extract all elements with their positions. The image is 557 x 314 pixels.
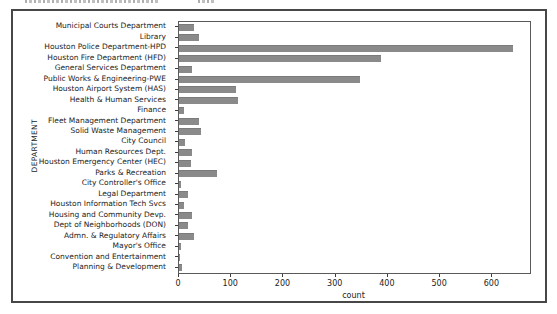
y-tick-mark: [175, 225, 178, 226]
category-label: Housing and Community Devp.: [13, 211, 173, 219]
y-tick-mark: [175, 173, 178, 174]
category-label: Municipal Courts Department: [13, 22, 173, 30]
bar: [179, 149, 192, 156]
x-axis-title: count: [342, 292, 365, 300]
bar: [179, 55, 381, 62]
category-label: Houston Airport System (HAS): [13, 85, 173, 93]
y-tick-mark: [175, 256, 178, 257]
category-label: Public Works & Engineering-PWE: [13, 75, 173, 83]
category-label: Mayor's Office: [13, 242, 173, 250]
y-tick-mark: [175, 246, 178, 247]
bar: [179, 191, 188, 198]
x-tick-label: 100: [223, 280, 238, 288]
y-axis-title: DEPARTMENT: [31, 115, 39, 175]
cropped-text-fragment: [25, 0, 160, 3]
x-tick-mark: [387, 274, 388, 277]
bar: [179, 202, 184, 209]
x-tick-mark: [335, 274, 336, 277]
x-tick-label: 0: [175, 280, 180, 288]
plot-area: [178, 21, 531, 274]
y-tick-mark: [175, 99, 178, 100]
y-tick-mark: [175, 37, 178, 38]
bar: [179, 170, 217, 177]
y-tick-mark: [175, 235, 178, 236]
figure-frame: Municipal Courts DepartmentLibraryHousto…: [11, 9, 547, 303]
y-tick-mark: [175, 68, 178, 69]
bar: [179, 107, 184, 114]
bar: [179, 233, 194, 240]
category-label: Houston Fire Department (HFD): [13, 54, 173, 62]
y-tick-mark: [175, 26, 178, 27]
x-tick-label: 300: [327, 280, 342, 288]
y-tick-mark: [175, 58, 178, 59]
y-tick-mark: [175, 162, 178, 163]
x-tick-mark: [178, 274, 179, 277]
bar: [179, 76, 360, 83]
bar: [179, 243, 181, 250]
category-label: Admn. & Regulatory Affairs: [13, 232, 173, 240]
bar: [179, 34, 199, 41]
y-tick-mark: [175, 120, 178, 121]
y-tick-mark: [175, 141, 178, 142]
y-tick-mark: [175, 131, 178, 132]
bar: [179, 24, 194, 31]
x-tick-mark: [282, 274, 283, 277]
x-tick-label: 600: [484, 280, 499, 288]
bar: [179, 222, 188, 229]
category-label: Health & Human Services: [13, 96, 173, 104]
x-tick-label: 500: [432, 280, 447, 288]
category-label: Houston Information Tech Svcs: [13, 200, 173, 208]
x-tick-mark: [439, 274, 440, 277]
x-tick-mark: [230, 274, 231, 277]
cropped-text-fragment: [198, 0, 216, 3]
x-tick-mark: [491, 274, 492, 277]
y-tick-mark: [175, 267, 178, 268]
y-tick-mark: [175, 183, 178, 184]
bar: [179, 160, 191, 167]
y-tick-mark: [175, 204, 178, 205]
y-tick-mark: [175, 214, 178, 215]
category-label: Convention and Entertainment: [13, 253, 173, 261]
category-label: General Services Department: [13, 64, 173, 72]
category-label: Finance: [13, 106, 173, 114]
category-label: City Controller's Office: [13, 179, 173, 187]
bar: [179, 66, 192, 73]
bar: [179, 264, 182, 271]
category-label: Houston Police Department-HPD: [13, 43, 173, 51]
category-label: Legal Department: [13, 190, 173, 198]
bar: [179, 128, 201, 135]
bar: [179, 212, 192, 219]
y-tick-mark: [175, 110, 178, 111]
y-tick-mark: [175, 79, 178, 80]
y-tick-mark: [175, 194, 178, 195]
bar: [179, 118, 199, 125]
bar: [179, 86, 236, 93]
y-tick-mark: [175, 47, 178, 48]
bar: [179, 97, 238, 104]
category-label: Dept of Neighborhoods (DON): [13, 221, 173, 229]
bar: [179, 254, 180, 261]
category-label: Library: [13, 33, 173, 41]
bar: [179, 139, 185, 146]
bar: [179, 45, 513, 52]
x-tick-label: 200: [275, 280, 290, 288]
screenshot-canvas: Municipal Courts DepartmentLibraryHousto…: [0, 0, 557, 314]
category-label: Planning & Development: [13, 263, 173, 271]
bar: [179, 181, 181, 188]
y-tick-mark: [175, 89, 178, 90]
y-tick-mark: [175, 152, 178, 153]
x-tick-label: 400: [379, 280, 394, 288]
